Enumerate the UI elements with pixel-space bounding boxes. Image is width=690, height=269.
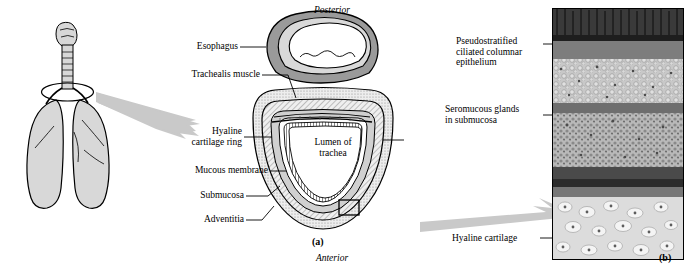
label-submucosa: Submucosa xyxy=(160,190,244,201)
arrow-section-to-micrograph xyxy=(420,198,560,232)
esophagus-cross-section xyxy=(267,11,378,83)
orientation-posterior: Posterior xyxy=(297,5,367,16)
orientation-anterior: Anterior xyxy=(297,253,367,264)
panel-letter-b: (b) xyxy=(659,252,671,263)
label-trachealis-muscle: Trachealis muscle xyxy=(140,69,260,80)
trachea-cross-section xyxy=(253,88,393,230)
label-lumen-of-trachea: Lumen of trachea xyxy=(298,137,368,158)
label-esophagus: Esophagus xyxy=(150,41,238,52)
figure-root: Esophagus Trachealis muscle Hyaline cart… xyxy=(0,0,690,269)
panel-letter-a: (a) xyxy=(312,236,324,247)
label-hyaline-cartilage: Hyaline cartilage xyxy=(452,233,544,244)
lung-illustration xyxy=(27,22,109,208)
label-seromucous-glands: Seromucous glands in submucosa xyxy=(445,104,545,125)
label-pseudostratified-epithelium: Pseudostratified ciliated columnar epith… xyxy=(456,36,552,68)
label-mucous-membrane: Mucous membrane xyxy=(150,165,268,176)
micrograph-panel xyxy=(552,8,684,260)
label-hyaline-cartilage-ring: Hyaline cartilage ring xyxy=(152,126,242,147)
label-adventitia: Adventitia xyxy=(162,214,244,225)
